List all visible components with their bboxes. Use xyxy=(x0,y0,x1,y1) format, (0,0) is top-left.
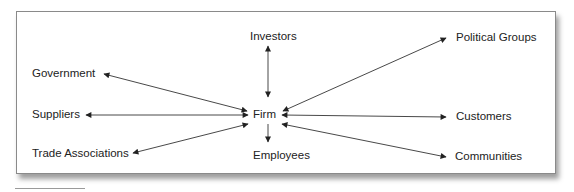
node-investors: Investors xyxy=(250,30,297,43)
edge-firm-government xyxy=(104,74,247,111)
node-political-groups: Political Groups xyxy=(456,31,537,44)
edge-firm-customers xyxy=(282,115,446,117)
node-suppliers: Suppliers xyxy=(32,108,80,121)
node-trade-associations: Trade Associations xyxy=(32,147,129,160)
node-firm: Firm xyxy=(253,108,276,121)
node-customers: Customers xyxy=(456,110,512,123)
connector-arrows xyxy=(0,0,574,192)
node-government: Government xyxy=(32,67,95,80)
edge-firm-political-groups xyxy=(283,38,446,111)
node-employees: Employees xyxy=(253,149,310,162)
node-communities: Communities xyxy=(455,150,522,163)
edge-firm-trade-associations xyxy=(133,124,248,153)
